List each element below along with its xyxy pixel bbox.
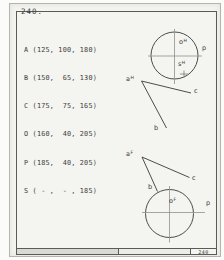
label-a-front-sup: F — [130, 150, 133, 155]
label-b-top: b — [154, 125, 158, 132]
title-block-cell-middle — [119, 249, 191, 254]
label-p-front: p — [206, 200, 210, 207]
projection-drawing — [0, 0, 224, 260]
label-s-top-sup: H — [182, 60, 185, 65]
label-o-top: oH — [179, 39, 187, 47]
label-o-front: oF — [169, 198, 176, 206]
label-o-top-sup: H — [183, 38, 186, 43]
label-c-top: c — [194, 88, 198, 95]
label-b-front: b — [148, 184, 152, 191]
label-p-top: p — [202, 45, 206, 52]
label-a-top-sup: H — [130, 75, 133, 80]
s-point-marker — [180, 71, 188, 78]
label-o-front-sup: F — [173, 197, 176, 202]
front-view-line-a-c — [142, 157, 190, 178]
title-block: 240 — [16, 248, 217, 255]
label-a-front: aF — [126, 151, 133, 159]
top-view — [142, 29, 203, 128]
top-view-line-a-b — [142, 81, 167, 128]
sheet-number: 240 — [191, 249, 216, 254]
label-s-top: sH — [178, 61, 185, 69]
label-s-top-base: s — [178, 60, 181, 68]
title-block-cell-left — [17, 249, 119, 254]
label-c-front: c — [192, 175, 196, 182]
label-a-top: aH — [126, 76, 134, 84]
top-view-line-a-c — [142, 81, 192, 93]
scanned-figure: 240. A (125, 100, 180) B (150, 65, 130) … — [0, 0, 224, 260]
